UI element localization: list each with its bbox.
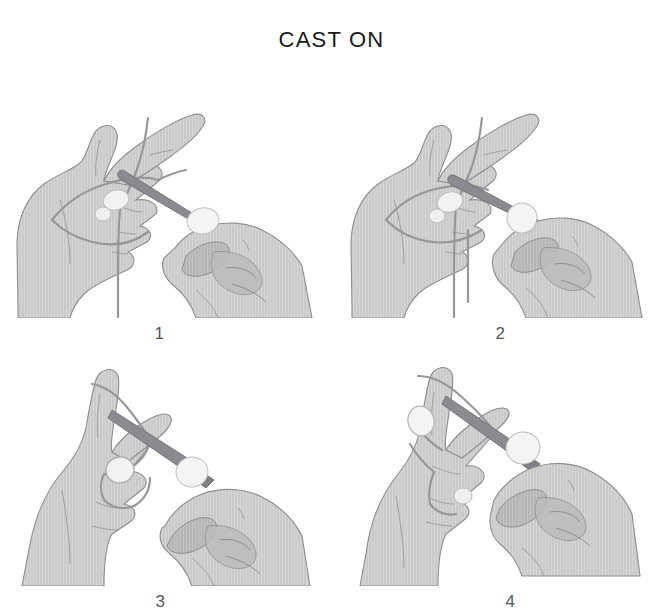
figure-caption-4: 4 [345, 592, 663, 612]
figure-illustration-3 [0, 348, 331, 586]
figure-panel-2: 2 [332, 80, 663, 348]
illustration-page: CAST ON [0, 0, 663, 616]
right-hand [490, 463, 640, 576]
right-hand [162, 223, 312, 318]
figure-illustration-2 [332, 80, 663, 318]
figure-illustration-4 [332, 348, 663, 586]
right-hand [160, 489, 310, 586]
right-hand [492, 218, 642, 318]
figure-caption-1: 1 [0, 324, 325, 344]
figure-caption-2: 2 [335, 324, 663, 344]
figure-panel-1: 1 [0, 80, 331, 348]
figure-illustration-1 [0, 80, 331, 318]
figure-panel-4: 4 [332, 348, 663, 616]
figure-caption-3: 3 [0, 592, 326, 612]
panel-grid: 1 [0, 80, 663, 616]
page-title: CAST ON [0, 27, 663, 53]
figure-panel-3: 3 [0, 348, 331, 616]
left-hand [22, 370, 171, 586]
left-hand [360, 368, 509, 586]
